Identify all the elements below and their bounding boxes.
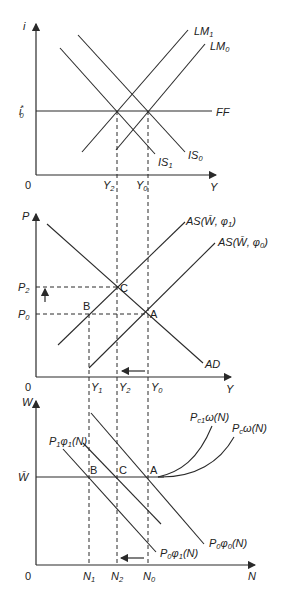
p2-label: P2	[18, 281, 30, 295]
n2-label: N2	[111, 570, 124, 584]
p-axis-label: P	[22, 210, 30, 222]
is0-label: IS0	[188, 149, 203, 163]
p0-phi1-curve	[63, 449, 156, 552]
is1-curve	[60, 48, 155, 154]
y2-label-p1: Y2	[103, 179, 115, 193]
point-c-p3: C	[119, 464, 127, 476]
origin-label-p3: 0	[25, 570, 31, 582]
p1-phi1-label: P1φ1(N)	[49, 435, 87, 449]
n0-label: N0	[143, 570, 156, 584]
i-axis-label: i	[23, 20, 26, 32]
w-axis-label: W	[22, 396, 34, 408]
point-b-p3: B	[90, 464, 97, 476]
p0-phi1-label: P0φ1(N)	[160, 547, 198, 561]
ff-label: FF	[216, 106, 231, 118]
economics-diagram: i i*0 0 Y2 Y0 Y LM1 LM0 FF IS0 IS1 P P2 …	[0, 0, 283, 595]
n1-label: N1	[83, 570, 95, 584]
origin-label-p2: 0	[25, 381, 31, 393]
as-phi0-label: AS(W̄, φ0)	[217, 236, 268, 250]
n-axis-label: N	[248, 570, 256, 582]
y2-label-p2: Y2	[119, 381, 131, 395]
y-axis-label-p1: Y	[210, 181, 218, 193]
y0-label-p2: Y0	[151, 381, 163, 395]
point-b-p2: B	[83, 300, 90, 312]
is1-label: IS1	[158, 156, 173, 170]
y0-label-p1: Y0	[136, 179, 148, 193]
point-a-p2: A	[150, 308, 158, 320]
lm0-label: LM0	[210, 40, 230, 54]
pc1-omega-curve	[158, 426, 212, 477]
y1-label-p2: Y1	[91, 381, 103, 395]
pc-omega-curve	[158, 437, 234, 477]
as-ad-panel: P P2 P0 0 Y1 Y2 Y0 Y AS(W̄, φ1) AS(W̄, φ…	[18, 210, 268, 565]
y-axis-label-p2: Y	[226, 383, 234, 395]
wbar-label: W̄	[18, 471, 30, 483]
ad-label: AD	[204, 358, 220, 370]
as-phi0-curve	[89, 243, 215, 368]
p0-label: P0	[18, 308, 30, 322]
point-a-p3: A	[150, 464, 158, 476]
labor-market-panel: W W̄ 0 N1 N2 N0 N B C A P1φ1(N) P0φ1(N) …	[18, 377, 267, 584]
point-c-p2: C	[120, 282, 128, 294]
lm1-label: LM1	[194, 25, 213, 39]
as-phi1-label: AS(W̄, φ1)	[185, 215, 236, 229]
origin-label-p1: 0	[25, 179, 31, 191]
pc-omega-label: Pcω(N)	[232, 422, 267, 436]
i0-star-label: i*0	[19, 103, 24, 120]
pc1-omega-label: Pc1ω(N)	[190, 411, 229, 425]
p0-phi0-label: P0φ0(N)	[209, 537, 247, 551]
